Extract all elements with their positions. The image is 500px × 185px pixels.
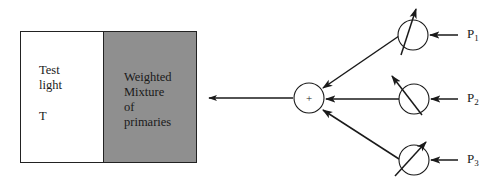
primary-label-1: P1 — [467, 26, 479, 43]
primary-2-index: 2 — [474, 97, 479, 107]
weight-knob-3-icon — [395, 142, 429, 176]
primary-3-index: 3 — [474, 158, 479, 168]
arrow-p1-to-sum — [323, 36, 399, 88]
summing-node: + — [294, 83, 324, 113]
svg-text:+: + — [306, 92, 312, 104]
weight-knob-2-icon — [392, 76, 429, 115]
primary-label-2: P2 — [467, 90, 479, 107]
weight-knob-1-icon — [398, 9, 428, 55]
signal-flow-diagram: + — [0, 0, 500, 185]
primary-label-3: P3 — [467, 151, 479, 168]
primary-1-index: 1 — [474, 33, 479, 43]
arrow-p3-to-sum — [323, 110, 399, 159]
